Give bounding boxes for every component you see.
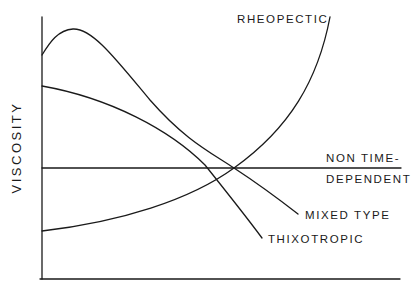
series-thixotropic — [42, 86, 262, 238]
label-non-time-dependent-line1: NON TIME- — [326, 152, 400, 164]
series-mixed-type — [42, 29, 298, 214]
series-rheopectic — [42, 17, 330, 231]
viscosity-chart — [0, 0, 414, 293]
label-non-time-dependent-line2: DEPENDENT — [326, 173, 411, 185]
label-rheopectic: RHEOPECTIC — [237, 13, 328, 25]
label-mixed-type: MIXED TYPE — [305, 209, 390, 221]
y-axis-label: VISCOSITY — [9, 93, 24, 203]
label-thixotropic: THIXOTROPIC — [268, 233, 364, 245]
